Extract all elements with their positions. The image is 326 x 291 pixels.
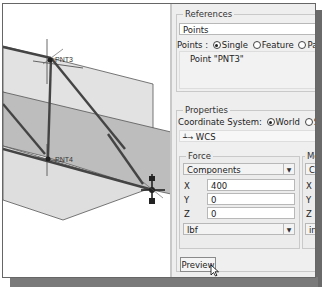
- csys-icon: ┴→: [183, 134, 193, 142]
- single-radio[interactable]: [213, 41, 221, 49]
- coord-system-row: Coordinate System: World Select: [178, 117, 316, 127]
- properties-title: Properties: [183, 105, 230, 115]
- moment-mode-dropdown[interactable]: Co: [305, 163, 316, 175]
- select-radio[interactable]: [305, 118, 313, 126]
- chevron-down-icon[interactable]: ▼: [283, 164, 294, 174]
- single-label[interactable]: Single: [222, 40, 248, 50]
- feature-label[interactable]: Feature: [262, 40, 294, 50]
- window-shadow-bottom: [10, 277, 318, 287]
- select-label[interactable]: Select: [314, 117, 316, 127]
- coord-system-field[interactable]: ┴→ WCS: [179, 130, 316, 142]
- force-units-value: lbf: [187, 225, 198, 235]
- coord-system-value: WCS: [196, 132, 216, 142]
- properties-group: Properties Coordinate System: World Sele…: [176, 110, 316, 272]
- world-label[interactable]: World: [276, 117, 300, 127]
- points-label: Points :: [177, 40, 208, 50]
- selected-references-list[interactable]: Point "PNT3": [179, 51, 316, 89]
- moment-group: Mo Co X Y Z in: [302, 156, 316, 249]
- force-title: Force: [186, 151, 213, 161]
- moment-z-label: Z: [306, 209, 312, 219]
- chevron-down-icon[interactable]: ▼: [283, 224, 294, 234]
- pattern-radio[interactable]: [298, 41, 306, 49]
- force-mode-dropdown[interactable]: Components ▼: [183, 163, 295, 175]
- force-x-input[interactable]: 400: [207, 179, 295, 191]
- coord-system-label: Coordinate System:: [178, 117, 262, 127]
- points-option-row: Points : Single Feature Patte: [177, 40, 316, 50]
- moment-units-dropdown[interactable]: in: [305, 223, 316, 235]
- truss-model-drawing: PNT3 PNT4: [3, 4, 171, 277]
- svg-text:PNT4: PNT4: [55, 156, 73, 163]
- force-x-label: X: [184, 181, 190, 191]
- force-y-input[interactable]: 0: [207, 193, 295, 205]
- force-mode-value: Components: [187, 165, 241, 175]
- svg-text:PNT3: PNT3: [55, 56, 73, 63]
- pattern-label[interactable]: Patte: [307, 40, 316, 50]
- application-window: PNT3 PNT4 References Points: [2, 3, 316, 278]
- force-z-label: Z: [184, 209, 190, 219]
- force-group: Force Components ▼ X 400 Y 0 Z 0 lbf ▼: [179, 156, 300, 249]
- world-radio[interactable]: [267, 118, 275, 126]
- moment-y-label: Y: [306, 195, 311, 205]
- feature-radio[interactable]: [253, 41, 261, 49]
- force-moment-panel: References Points Points : Single Featur…: [170, 4, 316, 277]
- points-collector[interactable]: Points: [179, 23, 316, 35]
- moment-x-label: X: [306, 181, 312, 191]
- graphics-viewport[interactable]: PNT3 PNT4: [3, 4, 171, 277]
- force-z-input[interactable]: 0: [207, 207, 295, 219]
- references-group: References Points Points : Single Featur…: [176, 14, 316, 92]
- moment-title: Mo: [305, 151, 316, 161]
- mouse-cursor-icon: [210, 264, 220, 277]
- selected-point-item[interactable]: Point "PNT3": [190, 54, 244, 64]
- force-y-label: Y: [184, 195, 189, 205]
- references-title: References: [183, 9, 234, 19]
- force-units-dropdown[interactable]: lbf ▼: [183, 223, 295, 235]
